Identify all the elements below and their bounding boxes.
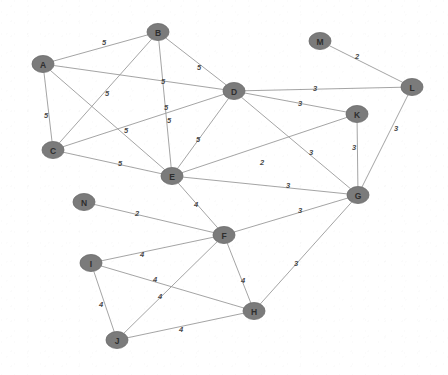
- node-label-c: C: [50, 146, 56, 156]
- graph-node-n[interactable]: N: [73, 194, 95, 211]
- graph-node-l[interactable]: L: [401, 79, 423, 96]
- graph-edge-j-h: [128, 313, 244, 338]
- node-label-e: E: [169, 172, 175, 182]
- edge-weight-b-d: 5: [197, 63, 202, 72]
- edges-layer: [44, 35, 408, 338]
- edge-weight-b-e: 5: [164, 103, 169, 112]
- node-label-j: J: [115, 336, 120, 346]
- node-label-a: A: [40, 60, 46, 70]
- graph-edge-f-g: [234, 198, 347, 232]
- node-label-g: G: [355, 191, 362, 201]
- graph-node-k[interactable]: K: [346, 106, 368, 123]
- graph-edge-d-e: [177, 98, 228, 168]
- graph-edge-a-b: [53, 35, 147, 61]
- graph-edge-k-g: [357, 123, 358, 187]
- node-label-f: F: [221, 231, 226, 241]
- graph-edge-d-g: [241, 97, 350, 189]
- graph-node-b[interactable]: B: [147, 24, 169, 41]
- edge-weight-n-f: 2: [134, 209, 140, 218]
- edge-weight-e-f: 4: [193, 200, 199, 209]
- node-label-d: D: [231, 87, 237, 97]
- graph-edge-d-l: [245, 87, 401, 91]
- node-label-l: L: [409, 83, 414, 93]
- graph-node-m[interactable]: M: [309, 33, 331, 50]
- graph-edge-b-d: [166, 38, 226, 85]
- edge-weight-a-c: 5: [44, 111, 49, 120]
- node-label-b: B: [155, 28, 161, 38]
- graph-node-a[interactable]: A: [32, 56, 54, 73]
- graph-edge-i-f: [102, 237, 214, 261]
- graph-edge-j-f: [124, 242, 217, 334]
- nodes-layer: ABCDEFGHIJKLMN: [32, 24, 423, 349]
- graph-edge-e-g: [183, 177, 347, 194]
- graph-edge-a-e: [50, 70, 164, 169]
- node-label-i: I: [90, 259, 92, 269]
- graph-node-j[interactable]: J: [106, 332, 128, 349]
- edge-weight-d-l: 3: [313, 84, 318, 93]
- graph-edge-f-h: [227, 243, 251, 303]
- graph-node-c[interactable]: C: [42, 142, 64, 159]
- graph-edge-m-l: [329, 46, 403, 83]
- edge-weight-l-g: 3: [394, 124, 399, 133]
- graph-node-e[interactable]: E: [161, 168, 183, 185]
- edge-weight-e-k: 2: [259, 158, 265, 167]
- graph-node-i[interactable]: I: [80, 255, 102, 272]
- graph-edge-d-k: [245, 93, 347, 112]
- edge-weight-d-e: 5: [196, 135, 201, 144]
- edge-weight-f-h: 4: [240, 276, 246, 285]
- graph-edge-i-j: [94, 271, 114, 332]
- graph-node-h[interactable]: H: [243, 303, 265, 320]
- graph-node-g[interactable]: G: [347, 187, 369, 204]
- node-label-n: N: [81, 198, 87, 208]
- graph-node-f[interactable]: F: [213, 227, 235, 244]
- graph-edge-a-c: [44, 72, 52, 141]
- edge-weight-a-b: 5: [102, 38, 107, 47]
- edge-weight-c-e: 5: [118, 159, 123, 168]
- edge-weight-c-d: 5: [167, 116, 172, 125]
- edge-weight-f-g: 3: [298, 206, 303, 215]
- edge-weight-d-g: 3: [309, 148, 314, 157]
- edge-labels-layer: 5555555555333332323324444444: [44, 38, 399, 334]
- graph-edge-c-e: [64, 152, 162, 173]
- node-label-h: H: [251, 307, 257, 317]
- graph-node-d[interactable]: D: [223, 83, 245, 100]
- edge-weight-i-h: 4: [152, 275, 158, 284]
- edge-weight-a-e: 5: [124, 126, 129, 135]
- edge-weight-j-h: 4: [178, 325, 184, 334]
- edge-weight-j-f: 4: [157, 292, 163, 301]
- edge-weight-e-g: 3: [286, 181, 291, 190]
- graph-edge-i-h: [101, 266, 243, 308]
- edge-weight-g-h: 3: [294, 259, 299, 268]
- node-label-k: K: [354, 110, 361, 120]
- edge-weight-m-l: 2: [354, 52, 360, 61]
- graph-edge-g-h: [260, 202, 351, 304]
- graph-edge-l-g: [362, 95, 408, 187]
- graph-edge-e-k: [182, 117, 347, 172]
- graph-diagram: 5555555555333332323324444444 ABCDEFGHIJK…: [0, 0, 448, 375]
- edge-weight-k-g: 3: [352, 143, 357, 152]
- edge-weight-i-f: 4: [139, 250, 145, 259]
- edge-weight-i-j: 4: [98, 300, 104, 309]
- edge-weight-b-c: 5: [105, 89, 110, 98]
- node-label-m: M: [316, 37, 323, 47]
